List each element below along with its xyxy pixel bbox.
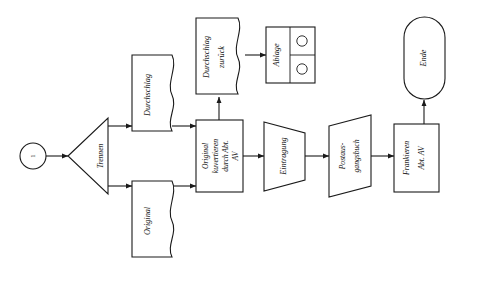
node-original-label: Original (143, 206, 152, 235)
node-ende-label: Ende (419, 49, 428, 67)
node-start[interactable]: 1 (20, 143, 46, 169)
node-eintragung-label: Eintragung (279, 137, 288, 175)
node-kuvertieren-line3: durch Abt. (221, 140, 230, 172)
node-durchschlag-label: Durchschlag (143, 74, 152, 117)
node-trennen[interactable]: Trennen (68, 118, 108, 194)
node-trennen-label: Trennen (96, 143, 105, 168)
node-ende[interactable]: Ende (404, 17, 445, 99)
node-durchschlag[interactable]: Durchschlag (132, 55, 174, 131)
node-postausgangsbuch-line1: Postaus- (338, 142, 347, 170)
flowchart-canvas: 1 Trennen Durchschlag Original Original … (0, 0, 477, 284)
node-postausgangsbuch[interactable]: Postaus- gangsbuch (329, 115, 371, 197)
node-original[interactable]: Original (132, 181, 174, 257)
node-kuvertieren-line1: Original (201, 143, 210, 169)
ablage-mark-circle-lower (297, 64, 307, 74)
node-frankieren[interactable]: Frankieren Abt. AV (394, 124, 439, 192)
node-ablage-label: Ablage (272, 43, 281, 68)
node-durchschlag-zurueck[interactable]: Durchschlag zurück (196, 18, 240, 94)
ablage-mark-circle-upper (297, 36, 307, 46)
node-eintragung[interactable]: Eintragung (264, 122, 305, 191)
node-start-label: 1 (29, 154, 36, 157)
node-kuvertieren[interactable]: Original kuvertieren durch Abt. AV (196, 120, 243, 192)
node-ablage[interactable]: Ablage (266, 27, 315, 83)
flowchart-svg: 1 Trennen Durchschlag Original Original … (0, 0, 477, 284)
node-postausgangsbuch-line2: gangsbuch (352, 139, 361, 172)
node-kuvertieren-line2: kuvertieren (211, 139, 220, 173)
node-kuvertieren-line4: AV (231, 150, 240, 161)
node-durchschlag-zurueck-line2: zurück (217, 46, 226, 69)
node-frankieren-line1: Frankieren (402, 141, 411, 176)
node-durchschlag-zurueck-line1: Durchschlag (202, 36, 211, 79)
node-frankieren-line2: Abt. AV (417, 145, 426, 170)
